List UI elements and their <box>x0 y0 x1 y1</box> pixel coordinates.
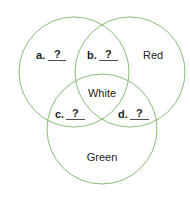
blank-a-answer: ? <box>54 48 61 60</box>
blank-d-answer: ? <box>136 107 143 119</box>
right-circle <box>75 17 185 127</box>
blank-d-letter: d. <box>118 108 128 120</box>
label-red: Red <box>143 49 163 61</box>
blank-c: c. ? <box>55 107 85 120</box>
blank-c-answer: ? <box>72 107 79 119</box>
label-green: Green <box>87 151 118 163</box>
blank-c-letter: c. <box>55 108 64 120</box>
blank-b: b. ? <box>87 48 118 61</box>
blank-b-answer: ? <box>105 48 112 60</box>
label-white: White <box>88 87 116 99</box>
blank-a-letter: a. <box>36 49 45 61</box>
blank-b-letter: b. <box>87 49 97 61</box>
blank-d: d. ? <box>118 107 149 120</box>
venn-diagram: a. ? b. ? Red White c. ? d. ? Green <box>0 0 190 197</box>
blank-a: a. ? <box>36 48 66 61</box>
